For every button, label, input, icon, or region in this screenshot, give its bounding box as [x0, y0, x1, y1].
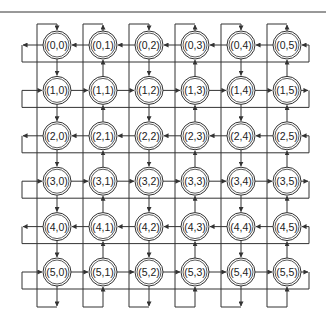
node-5-3: (5,3): [181, 258, 209, 286]
node-3-4: (3,4): [227, 167, 255, 195]
node-label: (1,2): [138, 84, 160, 96]
node-label: (3,4): [230, 175, 252, 187]
node-label: (0,5): [276, 39, 298, 51]
nodes-layer: (0,0)(0,1)(0,2)(0,3)(0,4)(0,5)(1,0)(1,1)…: [43, 31, 301, 286]
node-label: (0,1): [92, 39, 114, 51]
node-4-4: (4,4): [227, 213, 255, 241]
node-label: (5,5): [276, 266, 298, 278]
node-label: (0,4): [230, 39, 252, 51]
node-label: (1,0): [46, 84, 68, 96]
node-label: (4,5): [276, 221, 298, 233]
node-label: (5,2): [138, 266, 160, 278]
node-3-3: (3,3): [181, 167, 209, 195]
node-label: (3,2): [138, 175, 160, 187]
node-2-3: (2,3): [181, 122, 209, 150]
node-1-0: (1,0): [43, 76, 71, 104]
node-3-5: (3,5): [273, 167, 301, 195]
node-label: (2,4): [230, 130, 252, 142]
node-5-0: (5,0): [43, 258, 71, 286]
node-label: (2,3): [184, 130, 206, 142]
node-4-3: (4,3): [181, 213, 209, 241]
node-label: (2,0): [46, 130, 68, 142]
node-3-0: (3,0): [43, 167, 71, 195]
node-2-2: (2,2): [135, 122, 163, 150]
node-5-4: (5,4): [227, 258, 255, 286]
node-2-1: (2,1): [89, 122, 117, 150]
node-label: (0,0): [46, 39, 68, 51]
node-2-5: (2,5): [273, 122, 301, 150]
node-label: (2,1): [92, 130, 114, 142]
node-label: (5,1): [92, 266, 114, 278]
node-label: (3,5): [276, 175, 298, 187]
node-label: (5,4): [230, 266, 252, 278]
node-label: (1,4): [230, 84, 252, 96]
node-label: (0,3): [184, 39, 206, 51]
node-label: (0,2): [138, 39, 160, 51]
node-3-1: (3,1): [89, 167, 117, 195]
node-1-3: (1,3): [181, 76, 209, 104]
node-label: (1,1): [92, 84, 114, 96]
node-0-4: (0,4): [227, 31, 255, 59]
node-1-2: (1,2): [135, 76, 163, 104]
node-0-5: (0,5): [273, 31, 301, 59]
node-1-5: (1,5): [273, 76, 301, 104]
node-0-3: (0,3): [181, 31, 209, 59]
node-4-0: (4,0): [43, 213, 71, 241]
node-label: (1,3): [184, 84, 206, 96]
node-4-5: (4,5): [273, 213, 301, 241]
node-label: (4,3): [184, 221, 206, 233]
node-label: (4,1): [92, 221, 114, 233]
node-label: (3,3): [184, 175, 206, 187]
node-label: (5,3): [184, 266, 206, 278]
node-label: (4,4): [230, 221, 252, 233]
node-0-1: (0,1): [89, 31, 117, 59]
node-label: (1,5): [276, 84, 298, 96]
node-3-2: (3,2): [135, 167, 163, 195]
node-label: (2,5): [276, 130, 298, 142]
node-1-1: (1,1): [89, 76, 117, 104]
node-label: (2,2): [138, 130, 160, 142]
node-label: (3,0): [46, 175, 68, 187]
node-label: (3,1): [92, 175, 114, 187]
node-label: (5,0): [46, 266, 68, 278]
node-2-0: (2,0): [43, 122, 71, 150]
node-4-1: (4,1): [89, 213, 117, 241]
node-label: (4,2): [138, 221, 160, 233]
torus-mesh-diagram: (0,0)(0,1)(0,2)(0,3)(0,4)(0,5)(1,0)(1,1)…: [0, 0, 326, 326]
node-label: (4,0): [46, 221, 68, 233]
node-4-2: (4,2): [135, 213, 163, 241]
node-1-4: (1,4): [227, 76, 255, 104]
node-5-1: (5,1): [89, 258, 117, 286]
node-2-4: (2,4): [227, 122, 255, 150]
node-5-2: (5,2): [135, 258, 163, 286]
node-0-0: (0,0): [43, 31, 71, 59]
node-0-2: (0,2): [135, 31, 163, 59]
node-5-5: (5,5): [273, 258, 301, 286]
